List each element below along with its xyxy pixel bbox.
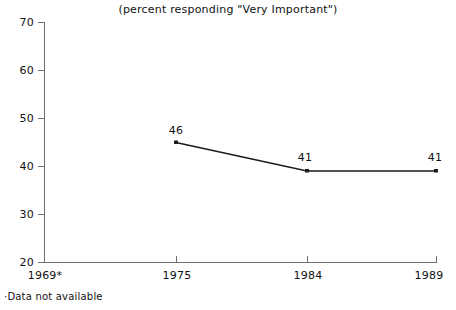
data-label-1975: 46 xyxy=(156,124,196,137)
y-axis-label-50: 50 xyxy=(4,112,34,125)
y-axis-label-70: 70 xyxy=(4,16,34,29)
data-label-1984: 41 xyxy=(285,151,325,164)
data-point-1975 xyxy=(174,141,178,145)
x-axis-label-1989: 1989 xyxy=(404,269,454,282)
x-axis-label-1984: 1984 xyxy=(277,269,339,282)
x-axis-label-1969: 1969* xyxy=(14,269,76,282)
y-axis-label-60: 60 xyxy=(4,64,34,77)
data-label-1989: 41 xyxy=(415,151,455,164)
chart-footnote: ·Data not available xyxy=(4,291,103,302)
x-axis-label-1975: 1975 xyxy=(146,269,208,282)
chart-plot-area xyxy=(0,0,456,310)
y-axis-label-30: 30 xyxy=(4,208,34,221)
y-axis-label-40: 40 xyxy=(4,160,34,173)
y-axis-label-20: 20 xyxy=(4,256,34,269)
chart-container: (percent responding "Very Important") 70… xyxy=(0,0,456,310)
data-point-1989 xyxy=(434,169,438,173)
data-point-1984 xyxy=(305,169,309,173)
